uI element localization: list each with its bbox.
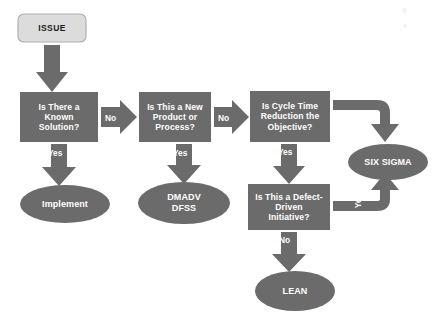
arrow-new-product-yes (167, 144, 201, 184)
arrow-new-product-no (214, 100, 249, 134)
arrow-cycle-time-no (333, 100, 399, 142)
shape-new-product[interactable] (139, 92, 211, 142)
shape-cycle-time[interactable] (250, 91, 330, 142)
shape-known-solution[interactable] (20, 92, 98, 142)
flowchart-canvas: ISSUE Is There a Known Solution? Is This… (0, 0, 434, 325)
shape-dmadv-dfss[interactable] (138, 182, 230, 224)
shape-defect-driven[interactable] (248, 184, 330, 230)
scan-artifact-2 (403, 24, 407, 28)
flowchart-shapes (0, 0, 434, 325)
shape-six-sigma[interactable] (348, 144, 428, 180)
arrow-known-solution-no (101, 100, 137, 134)
arrow-issue-to-known-solution (36, 45, 68, 92)
shape-lean[interactable] (255, 271, 335, 311)
shape-issue[interactable] (18, 14, 86, 42)
scan-artifact-1 (402, 8, 407, 13)
shape-implement[interactable] (20, 185, 110, 223)
arrow-cycle-time-yes (273, 144, 305, 184)
arrow-known-solution-yes (42, 144, 76, 186)
arrow-defect-driven-no (272, 232, 306, 272)
